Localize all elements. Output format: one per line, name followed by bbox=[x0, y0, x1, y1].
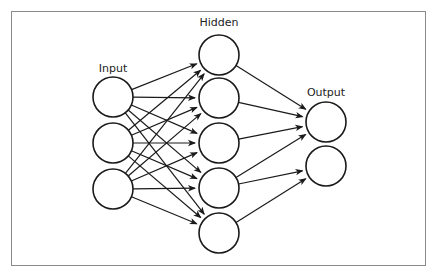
output-node-1 bbox=[306, 102, 346, 142]
layer-label-output: Output bbox=[307, 86, 346, 99]
hidden-node-3 bbox=[199, 123, 239, 163]
layer-label-input: Input bbox=[99, 62, 128, 75]
hidden-node-1 bbox=[199, 35, 239, 75]
arrow-h5-to-o2 bbox=[236, 179, 306, 223]
output-node-2 bbox=[306, 146, 346, 186]
arrow-i3-to-h5 bbox=[132, 197, 197, 224]
neural-network-diagram: Input Hidden Output bbox=[0, 0, 438, 277]
input-node-3 bbox=[93, 169, 133, 209]
hidden-node-5 bbox=[199, 213, 239, 253]
arrow-i1-to-h1 bbox=[132, 64, 197, 90]
arrow-i3-to-h4 bbox=[133, 188, 195, 189]
input-node-1 bbox=[93, 77, 133, 117]
arrow-h4-to-o1 bbox=[236, 135, 306, 178]
arrow-h1-to-o1 bbox=[236, 66, 306, 110]
arrow-h4-to-o2 bbox=[239, 171, 303, 184]
hidden-node-4 bbox=[199, 168, 239, 208]
arrow-h2-to-o1 bbox=[239, 102, 303, 116]
layer-label-hidden: Hidden bbox=[199, 16, 238, 29]
hidden-node-2 bbox=[199, 78, 239, 118]
input-node-2 bbox=[93, 123, 133, 163]
neuron-nodes bbox=[93, 35, 346, 253]
arrow-h3-to-o1 bbox=[239, 127, 303, 140]
